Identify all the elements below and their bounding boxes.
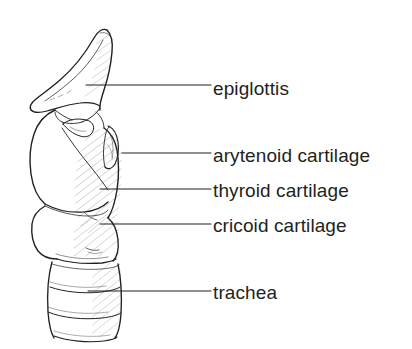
label-trachea: trachea [213,283,277,302]
leader-lines [86,85,211,291]
label-epiglottis: epiglottis [213,79,289,98]
epiglottis-structure [30,29,117,136]
label-thyroid-cartilage: thyroid cartilage [213,181,349,200]
thyroid-cartilage-structure [30,106,130,238]
label-arytenoid-cartilage: arytenoid cartilage [213,146,370,165]
larynx-drawing [0,0,412,349]
anatomical-figure: epiglottis arytenoid cartilage thyroid c… [0,0,412,349]
trachea-structure [48,246,132,346]
cricoid-cartilage-structure [32,190,128,270]
label-cricoid-cartilage: cricoid cartilage [213,216,347,235]
